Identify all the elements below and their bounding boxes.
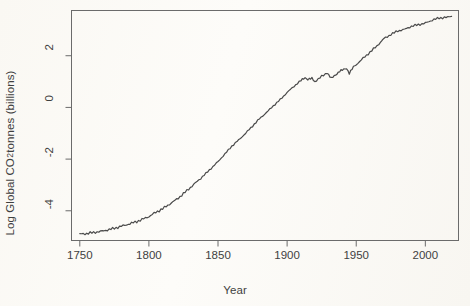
y-axis-title-post: tonnes (billions) xyxy=(0,70,20,152)
x-tick-label: 1750 xyxy=(57,249,103,261)
y-tick-label: 2 xyxy=(43,44,55,66)
y-axis-title-subscript: 2 xyxy=(0,153,20,158)
y-tick-label: 0 xyxy=(43,95,55,117)
plot-frame xyxy=(72,11,459,241)
x-tick-label: 1900 xyxy=(264,249,310,261)
y-tick-label: -2 xyxy=(43,147,55,169)
data-series-line xyxy=(80,16,452,234)
x-tick-label: 1850 xyxy=(195,249,241,261)
x-tick-label: 2000 xyxy=(402,249,448,261)
x-tick-label: 1950 xyxy=(333,249,379,261)
y-axis-ticks xyxy=(66,56,72,211)
chart-figure: Log Global CO2 tonnes (billions) Year 17… xyxy=(0,0,470,306)
x-axis-ticks xyxy=(80,241,426,247)
x-axis-title: Year xyxy=(0,284,470,296)
y-axis-title-pre: Log Global CO xyxy=(0,158,20,235)
x-tick-label: 1800 xyxy=(126,249,172,261)
y-tick-label: -4 xyxy=(43,199,55,221)
y-axis-title: Log Global CO2 tonnes (billions) xyxy=(0,0,20,306)
